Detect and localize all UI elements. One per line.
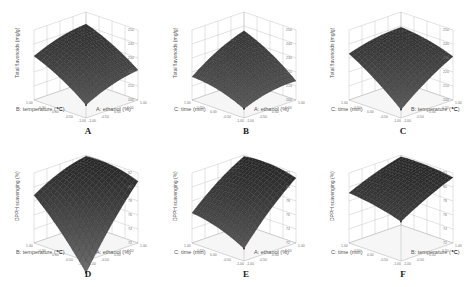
y-tick: 1.00	[455, 101, 462, 105]
y-tick: 1.00	[455, 244, 462, 248]
z-tick: 76	[286, 213, 290, 217]
z-tick: 72	[286, 241, 290, 245]
z-tick: 82	[128, 171, 132, 175]
y-tick: -1.00	[246, 262, 254, 266]
z-tick: 80	[128, 185, 132, 189]
z-tick: 200	[443, 98, 449, 102]
x-tick: -0.50	[380, 115, 388, 119]
panel-letter: D	[68, 269, 108, 279]
z-tick: 230	[128, 56, 134, 60]
y-tick: -0.50	[101, 258, 109, 262]
y-tick: 1.00	[140, 244, 147, 248]
z-tick: 210	[128, 84, 134, 88]
y-tick: 0.00	[272, 253, 279, 257]
z-tick: 210	[443, 84, 449, 88]
panel-letter: A	[68, 126, 108, 136]
y-tick: -0.50	[416, 115, 424, 119]
y-tick: -0.50	[259, 115, 267, 119]
y-tick: 0.50	[127, 249, 134, 253]
z-tick: 82	[443, 171, 447, 175]
z-tick: 240	[128, 42, 134, 46]
panel-letter: C	[383, 126, 423, 136]
z-tick: 82	[286, 171, 290, 175]
x-tick: 0.00	[210, 110, 217, 114]
x-tick: 0.50	[197, 106, 204, 110]
x-tick: -0.50	[223, 258, 231, 262]
z-axis-label: Total flavonoids (mg/g)	[329, 28, 335, 78]
panel-letter: F	[383, 269, 423, 279]
y-tick: 1.00	[140, 101, 147, 105]
x-tick: 0.00	[52, 253, 59, 257]
y-tick: -1.00	[403, 119, 411, 123]
x-tick: 0.50	[354, 249, 361, 253]
z-axis-label: Total flavonoids (mg/g)	[14, 28, 20, 78]
z-tick: 76	[128, 213, 132, 217]
x-tick: 0.50	[39, 106, 46, 110]
z-tick: 250	[128, 28, 134, 32]
y-tick: -1.00	[88, 119, 96, 123]
x-tick: 0.00	[210, 253, 217, 257]
y-tick: 0.50	[127, 106, 134, 110]
z-tick: 220	[128, 70, 134, 74]
z-tick: 210	[286, 84, 292, 88]
y-tick: 0.50	[442, 249, 449, 253]
z-tick: 80	[443, 185, 447, 189]
panel-letter: E	[226, 269, 266, 279]
x-tick: 1.00	[26, 101, 33, 105]
y-tick: -1.00	[88, 262, 96, 266]
x-tick: 0.00	[367, 110, 374, 114]
x-tick: 0.00	[367, 253, 374, 257]
x-tick: 0.50	[39, 249, 46, 253]
z-tick: 76	[443, 213, 447, 217]
z-tick: 230	[443, 56, 449, 60]
panel-f: DPPH scavenging (%)727476788082C: time (…	[315, 143, 473, 286]
x-tick: -0.50	[65, 115, 73, 119]
panel-c: Total flavonoids (mg/g)20021022023024025…	[315, 0, 473, 143]
y-tick: 0.50	[442, 106, 449, 110]
y-tick: -0.50	[416, 258, 424, 262]
z-tick: 230	[286, 56, 292, 60]
y-tick: 0.00	[114, 110, 121, 114]
x-tick: -1.00	[236, 262, 244, 266]
x-tick: -1.00	[393, 119, 401, 123]
x-tick: -1.00	[393, 262, 401, 266]
z-tick: 250	[286, 28, 292, 32]
z-tick: 200	[286, 98, 292, 102]
panel-b: Total flavonoids (mg/g)20021022023024025…	[158, 0, 316, 143]
y-tick: -0.50	[259, 258, 267, 262]
z-tick: 250	[443, 28, 449, 32]
z-tick: 72	[443, 241, 447, 245]
z-tick: 240	[443, 42, 449, 46]
x-tick: -0.50	[65, 258, 73, 262]
x-tick: -0.50	[380, 258, 388, 262]
z-tick: 220	[286, 70, 292, 74]
response-surface-figure: Total flavonoids (mg/g)20021022023024025…	[0, 0, 473, 287]
x-tick: 0.50	[354, 106, 361, 110]
z-tick: 200	[128, 98, 134, 102]
y-tick: 0.50	[285, 106, 292, 110]
y-tick: 0.00	[272, 110, 279, 114]
z-tick: 78	[286, 199, 290, 203]
z-tick: 74	[128, 227, 132, 231]
x-tick: -1.00	[236, 119, 244, 123]
y-tick: -0.50	[101, 115, 109, 119]
x-tick: 0.50	[197, 249, 204, 253]
y-tick: 0.00	[429, 110, 436, 114]
y-tick: -1.00	[403, 262, 411, 266]
x-tick: 1.00	[341, 101, 348, 105]
x-tick: 1.00	[184, 244, 191, 248]
x-tick: -1.00	[78, 119, 86, 123]
panel-d: DPPH scavenging (%)727476788082B: temper…	[0, 143, 158, 286]
z-axis-label: Total flavonoids (mg/g)	[172, 28, 178, 78]
z-tick: 78	[443, 199, 447, 203]
z-tick: 74	[443, 227, 447, 231]
x-tick: -0.50	[223, 115, 231, 119]
y-tick: 1.00	[298, 244, 305, 248]
y-tick: 0.00	[429, 253, 436, 257]
z-tick: 78	[128, 199, 132, 203]
y-tick: -1.00	[246, 119, 254, 123]
z-axis-label: DPPH scavenging (%)	[14, 171, 20, 221]
x-tick: 1.00	[184, 101, 191, 105]
x-tick: -1.00	[78, 262, 86, 266]
y-tick: 0.50	[285, 249, 292, 253]
